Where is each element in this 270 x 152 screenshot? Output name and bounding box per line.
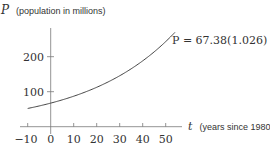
chart: 200 100 −10 0 10 20 30 40 50 P (populati… (0, 0, 270, 152)
x-axis-label: t (years since 1980) (188, 116, 270, 133)
x-tick-label-10: 10 (67, 133, 81, 146)
y-axis-description: (population in millions) (16, 6, 106, 16)
x-tick-label--10: −10 (14, 133, 37, 146)
y-tick-label-200: 200 (23, 51, 44, 64)
x-tick-label-0: 0 (47, 133, 54, 146)
y-tick-label-100: 100 (23, 86, 44, 99)
x-tick-label-30: 30 (113, 133, 127, 146)
x-axis-variable: t (188, 120, 193, 133)
equation-lhs: P = 67.38(1.026) (172, 34, 267, 47)
x-ticks (28, 123, 166, 127)
x-tick-label-40: 40 (136, 133, 150, 146)
exponential-curve (28, 32, 175, 108)
x-tick-label-50: 50 (159, 133, 173, 146)
x-tick-label-20: 20 (90, 133, 104, 146)
y-axis-variable: P (0, 3, 10, 17)
equation-label: P = 67.38(1.026) t (172, 33, 270, 47)
x-axis-description: (years since 1980) (199, 122, 270, 132)
y-axis-label: P (population in millions) (0, 0, 106, 17)
